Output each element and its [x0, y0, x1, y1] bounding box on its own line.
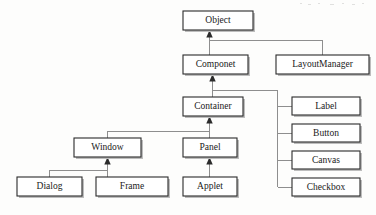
node-applet[interactable]: Applet: [183, 177, 239, 198]
node-object-label: Object: [205, 15, 231, 25]
node-dialog-label: Dialog: [37, 181, 63, 191]
node-layoutmanager[interactable]: LayoutManager: [276, 55, 371, 76]
node-checkbox-label: Checkbox: [307, 182, 346, 192]
class-hierarchy-diagram: Object Componet LayoutManager Container: [0, 0, 376, 215]
node-container[interactable]: Container: [183, 97, 245, 118]
node-dialog[interactable]: Dialog: [17, 177, 84, 198]
edge-layoutmanager-to-object: [210, 40, 323, 55]
node-layoutmanager-label: LayoutManager: [292, 59, 354, 69]
node-frame-label: Frame: [120, 181, 144, 191]
node-frame[interactable]: Frame: [96, 177, 170, 198]
node-componet-label: Componet: [196, 59, 236, 69]
node-checkbox[interactable]: Checkbox: [292, 178, 362, 198]
node-button-label: Button: [313, 128, 339, 138]
edge-window-to-container: [108, 131, 210, 138]
node-window-label: Window: [91, 142, 123, 152]
node-panel-label: Panel: [199, 142, 220, 152]
node-applet-label: Applet: [197, 181, 223, 191]
scan-noise: [300, 3, 364, 5]
node-window[interactable]: Window: [74, 138, 143, 159]
node-label-label: Label: [315, 101, 337, 111]
node-canvas-label: Canvas: [312, 155, 340, 165]
node-button[interactable]: Button: [292, 124, 362, 144]
hierarchy-svg: Object Componet LayoutManager Container: [0, 0, 376, 215]
node-label[interactable]: Label: [292, 97, 362, 117]
node-canvas[interactable]: Canvas: [292, 151, 362, 171]
edge-dialog-to-window: [50, 170, 108, 177]
node-panel[interactable]: Panel: [183, 138, 239, 159]
node-object[interactable]: Object: [183, 11, 255, 32]
node-container-label: Container: [194, 101, 232, 111]
node-componet[interactable]: Componet: [183, 55, 250, 76]
